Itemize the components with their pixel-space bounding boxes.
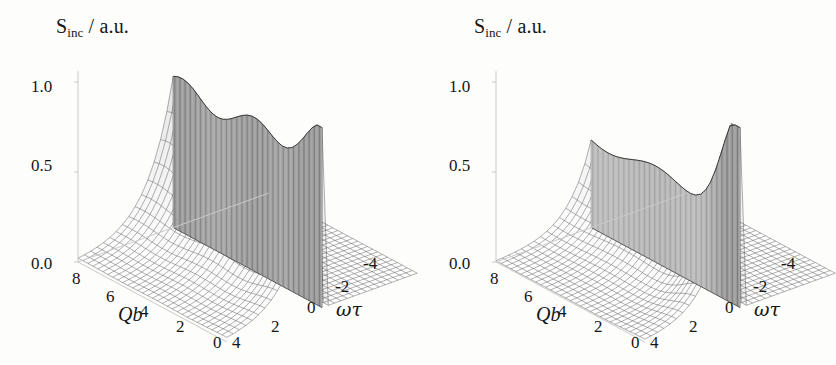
y-tick-4-left: 4 (232, 334, 241, 351)
x-tick-6-right: 6 (524, 288, 533, 305)
panel-title-subscript-left: inc (67, 25, 83, 40)
y-axis-name-left: ωτ (336, 300, 362, 319)
x-tick-2-left: 2 (176, 318, 185, 335)
panel-title-units-left: / a.u. (83, 15, 129, 37)
x-tick-8-right: 8 (490, 270, 499, 287)
z-tick-0.5-right: 0.5 (449, 157, 470, 174)
z-tick-0.0-right: 0.0 (449, 255, 470, 272)
y-tick-4-right: 4 (650, 334, 659, 351)
y-tick-0-left: 0 (307, 299, 316, 316)
y-axis-name-right: ωτ (754, 300, 780, 319)
panel-title-left: Sinc / a.u. (56, 16, 129, 39)
y-tick-minus4-left: -4 (363, 255, 377, 272)
x-tick-2-right: 2 (594, 318, 603, 335)
y-tick-2-right: 2 (689, 318, 698, 335)
x-axis-name-left: Qb (118, 304, 142, 324)
z-tick-0.0-left: 0.0 (31, 255, 52, 272)
panel-title-symbol-left: S (56, 15, 67, 37)
x-tick-6-left: 6 (106, 288, 115, 305)
x-axis-name-right: Qb (536, 304, 560, 324)
figure-root: Sinc / a.u. 1.0 0.5 0.0 8 6 4 2 0 Qb 4 2… (0, 0, 836, 365)
y-tick-minus4-right: -4 (781, 255, 795, 272)
panel-title-symbol-right: S (474, 15, 485, 37)
surface-plot-right: Sinc / a.u. 1.0 0.5 0.0 8 6 4 2 0 Qb 4 2… (418, 0, 836, 365)
x-tick-0-left: 0 (213, 334, 222, 351)
y-tick-minus2-right: -2 (753, 278, 767, 295)
z-tick-0.5-left: 0.5 (31, 157, 52, 174)
z-tick-1.0-left: 1.0 (31, 78, 52, 95)
panel-title-right: Sinc / a.u. (474, 16, 547, 39)
surface-plot-left: Sinc / a.u. 1.0 0.5 0.0 8 6 4 2 0 Qb 4 2… (0, 0, 418, 365)
x-tick-8-left: 8 (72, 270, 81, 287)
z-tick-1.0-right: 1.0 (449, 78, 470, 95)
x-tick-0-right: 0 (631, 334, 640, 351)
y-tick-2-left: 2 (271, 318, 280, 335)
y-tick-0-right: 0 (725, 299, 734, 316)
panel-title-units-right: / a.u. (501, 15, 547, 37)
panel-title-subscript-right: inc (485, 25, 501, 40)
y-tick-minus2-left: -2 (335, 278, 349, 295)
